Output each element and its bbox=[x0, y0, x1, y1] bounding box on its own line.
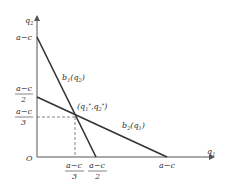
y-tick-third-den: 3 bbox=[21, 118, 26, 127]
x-tick-half-num: a−c bbox=[89, 161, 105, 170]
y-tick-third-num: a−c bbox=[16, 107, 32, 116]
y-axis-label: q2 bbox=[25, 16, 33, 26]
x-tick-a-c: a−c bbox=[159, 161, 175, 170]
b2-label: b2(q1) bbox=[122, 121, 145, 131]
y-tick-a-c: a−c bbox=[16, 33, 32, 42]
y-tick-half-den: 2 bbox=[20, 95, 26, 104]
origin-label: O bbox=[26, 154, 33, 163]
x-axis-label: q1 bbox=[207, 147, 215, 157]
y-tick-half-num: a−c bbox=[16, 84, 32, 93]
x-tick-third-den: 3 bbox=[72, 172, 77, 181]
best-response-diagram: q2 q1 O a−c a−c 2 a−c 3 a−c 3 a−c 2 a−c … bbox=[0, 0, 226, 186]
b1-label: b1(q2) bbox=[62, 73, 85, 83]
b1-line bbox=[37, 37, 96, 157]
x-tick-third-num: a−c bbox=[66, 161, 82, 170]
x-tick-half-den: 2 bbox=[94, 172, 100, 181]
equilibrium-label: (q1*,q2*) bbox=[77, 102, 107, 112]
